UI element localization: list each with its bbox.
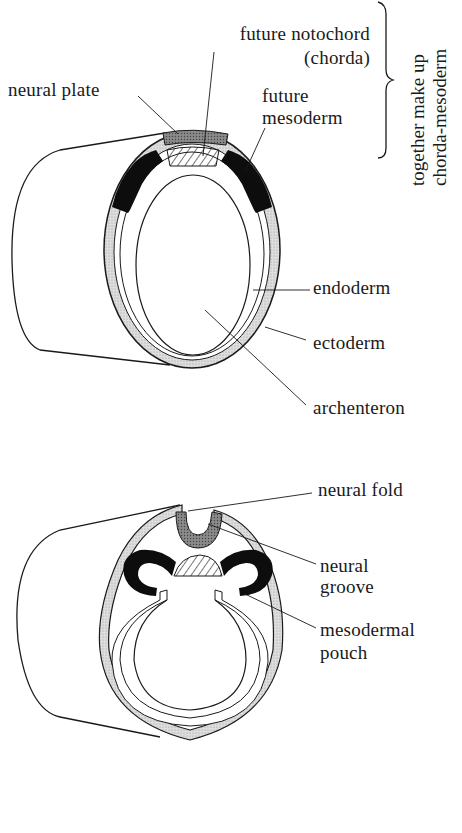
label-pouch: pouch <box>320 643 367 663</box>
label-mesodermal: mesodermal <box>320 620 415 640</box>
label-endoderm: endoderm <box>313 278 391 298</box>
top-archenteron <box>136 175 250 355</box>
bottom-notochord <box>174 555 222 576</box>
label-chorda: (chorda) <box>190 48 370 68</box>
bottom-mesodermal-pouch-left <box>123 550 176 596</box>
label-together-make-up: together make up <box>408 54 428 186</box>
label-neural-plate: neural plate <box>8 80 100 100</box>
label-mesoderm: mesoderm <box>262 108 343 128</box>
label-ectoderm: ectoderm <box>313 333 385 353</box>
label-neural: neural <box>320 556 369 576</box>
top-future-notochord <box>167 147 219 166</box>
bottom-neural-groove <box>176 512 222 548</box>
label-neural-fold: neural fold <box>318 480 403 500</box>
bottom-cylinder-body <box>17 505 180 737</box>
label-future-notochord: future notochord <box>190 24 370 44</box>
bottom-archenteron <box>134 600 246 710</box>
brace-icon <box>378 2 393 158</box>
label-archenteron: archenteron <box>313 398 405 418</box>
top-neural-plate <box>163 130 228 145</box>
label-chorda-mesoderm: chorda-mesoderm <box>430 49 450 186</box>
label-groove: groove <box>320 577 374 597</box>
bottom-mesodermal-pouch-right <box>220 550 273 596</box>
label-future: future <box>262 86 309 106</box>
bottom-embryo-diagram <box>17 493 316 740</box>
bottom-endoderm <box>112 590 268 726</box>
